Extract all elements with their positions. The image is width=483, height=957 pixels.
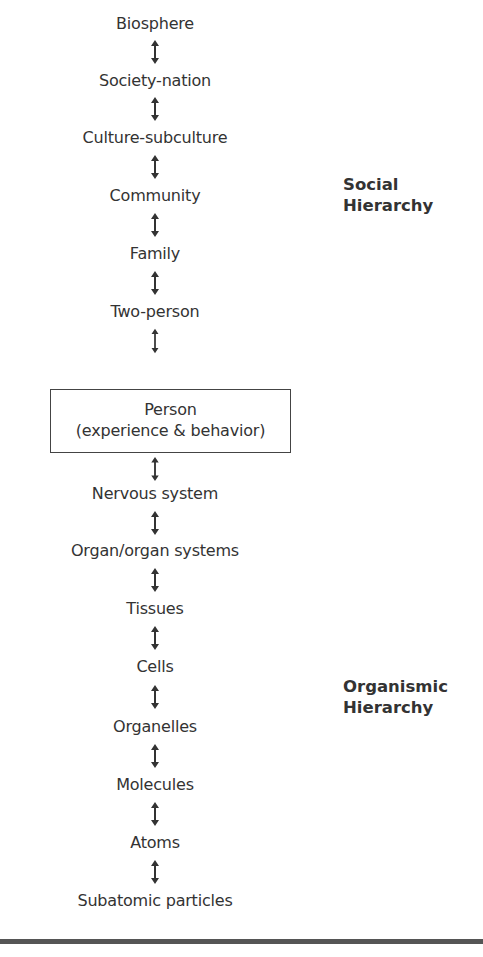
- double-arrow-icon: [149, 39, 161, 65]
- double-arrow-icon: [149, 456, 161, 482]
- level-nervous-system: Nervous system: [0, 484, 310, 504]
- level-organelles: Organelles: [0, 717, 310, 737]
- double-arrow-icon: [149, 801, 161, 827]
- level-society-nation: Society-nation: [0, 71, 310, 91]
- level-person: Person: [51, 399, 290, 420]
- double-arrow-icon: [149, 212, 161, 238]
- level-family: Family: [0, 244, 310, 264]
- level-tissues: Tissues: [0, 599, 310, 619]
- level-community: Community: [0, 186, 310, 206]
- level-organ-systems: Organ/organ systems: [0, 541, 310, 561]
- organismic-hierarchy-label: Organismic Hierarchy: [343, 676, 448, 718]
- level-atoms: Atoms: [0, 833, 310, 853]
- double-arrow-icon: [149, 96, 161, 122]
- social-hierarchy-label: Social Hierarchy: [343, 174, 433, 216]
- level-person-box: Person (experience & behavior): [50, 389, 291, 453]
- double-arrow-icon: [149, 743, 161, 769]
- level-culture-subculture: Culture-subculture: [0, 128, 310, 148]
- double-arrow-icon: [149, 270, 161, 296]
- level-biosphere: Biosphere: [0, 14, 310, 34]
- double-arrow-icon: [149, 684, 161, 710]
- double-arrow-icon: [149, 510, 161, 536]
- level-molecules: Molecules: [0, 775, 310, 795]
- double-arrow-icon: [149, 859, 161, 885]
- double-arrow-icon: [149, 328, 161, 354]
- double-arrow-icon: [149, 625, 161, 651]
- level-cells: Cells: [0, 657, 310, 677]
- level-subatomic-particles: Subatomic particles: [0, 891, 310, 911]
- double-arrow-icon: [149, 154, 161, 180]
- level-two-person: Two-person: [0, 302, 310, 322]
- double-arrow-icon: [149, 567, 161, 593]
- bottom-rule-divider: [0, 939, 483, 944]
- level-person-sublabel: (experience & behavior): [51, 420, 290, 441]
